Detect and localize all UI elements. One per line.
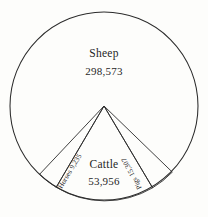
slice-name-sheep: Sheep: [0, 47, 208, 61]
slice-label-cattle: Cattle 53,956: [0, 158, 208, 188]
slice-value-cattle: 53,956: [0, 175, 208, 188]
slice-value-sheep: 298,573: [0, 65, 208, 78]
pie-chart-figure: Sheep 298,573 Cattle 53,956 Horses9,235 …: [0, 0, 208, 217]
slice-label-sheep: Sheep 298,573: [0, 47, 208, 78]
slice-name-cattle: Cattle: [0, 158, 208, 172]
